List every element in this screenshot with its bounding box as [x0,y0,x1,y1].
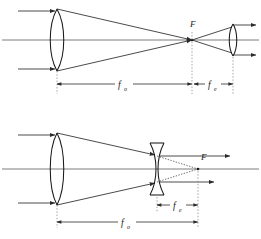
converging-ray-lower-bottom [57,183,155,205]
focal-point-label-bottom: F [200,152,207,162]
ray-diagram-svg: f o f e F [0,0,261,239]
converging-ray-lower-top [57,40,192,71]
keplerian-diagram: f o f e F [2,9,259,94]
label-fe-subscript-top: e [214,86,217,92]
label-fe-subscript-bottom: e [179,207,182,213]
optics-figure: f o f e F [0,0,261,239]
virtual-ray-lower-bottom [157,169,198,182]
focal-point-marker-bottom [197,168,200,171]
label-fo-subscript-top: o [124,86,127,92]
diverging-ray-upper-top [192,27,232,40]
diverging-ray-lower-top [192,40,232,53]
converging-ray-upper-bottom [57,133,155,155]
galilean-diagram: f e f o F [2,133,259,230]
virtual-ray-upper-bottom [157,156,198,169]
label-fo-subscript-bottom: o [127,224,130,230]
focal-point-label-top: F [189,19,196,29]
converging-ray-upper-top [57,9,192,40]
